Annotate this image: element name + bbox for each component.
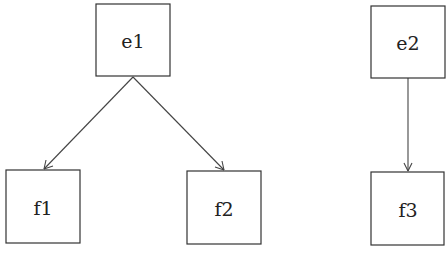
node-f3: f3 <box>371 172 444 245</box>
node-e1: e1 <box>96 4 170 76</box>
edge-e1-f1 <box>44 77 133 169</box>
node-label: e2 <box>396 32 419 54</box>
node-label: f1 <box>33 197 52 219</box>
edge-e1-f2 <box>133 77 224 170</box>
node-e2: e2 <box>371 6 445 78</box>
node-label: e1 <box>121 30 144 52</box>
node-label: f3 <box>398 199 417 221</box>
node-f1: f1 <box>6 170 80 243</box>
node-f2: f2 <box>187 171 261 244</box>
node-label: f2 <box>214 198 233 220</box>
diagram-canvas: e1 e2 f1 f2 f3 <box>0 0 446 256</box>
edge-e2-f3 <box>404 78 412 171</box>
